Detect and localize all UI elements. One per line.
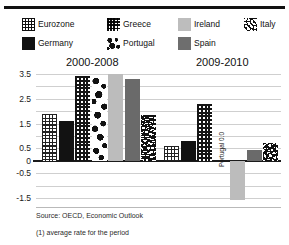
legend-label-portugal: Portugal [123,38,155,49]
legend-swatch-ireland-icon [178,18,191,31]
bar-italy-2000-2008[interactable] [141,115,156,161]
gridline-3.5 [36,74,281,75]
legend-swatch-italy-icon [244,18,257,31]
legend-item-ireland[interactable]: Ireland [178,16,220,33]
bar-italy-2009-2010[interactable] [263,143,278,160]
y-axis-tick-label-2.5: 2.5 [19,94,31,104]
y-axis-tick-label-0: 0 [26,156,31,166]
legend-label-eurozone: Eurozone [38,19,74,30]
y-axis-labels: 3.52.51.50.50-0.5-1.5 [0,74,34,198]
bar-spain-2000-2008[interactable] [125,79,140,161]
y-axis-tick-label--1.5: -1.5 [16,193,31,203]
gridline-2.5 [36,99,281,100]
legend-swatch-eurozone-icon [22,18,35,31]
legend-label-spain: Spain [194,38,216,49]
group-title-2000-2008: 2000-2008 [66,56,119,68]
bar-value-label-portugal-2009-2010: Portugal 0.0 [218,132,225,167]
legend-item-greece[interactable]: Greece [107,16,151,33]
legend-row-1: EurozoneGreeceIrelandItaly [22,16,284,33]
bar-spain-2009-2010[interactable] [247,150,262,161]
legend-item-italy[interactable]: Italy [244,16,276,33]
legend-swatch-spain-icon [178,37,191,50]
legend-label-italy: Italy [260,19,276,30]
bar-germany-2009-2010[interactable] [181,141,196,160]
y-axis-tick-label--0.5: -0.5 [16,168,31,178]
chart-legend: EurozoneGreeceIrelandItaly GermanyPortug… [22,16,284,54]
y-axis-tick-label-1.5: 1.5 [19,119,31,129]
bar-greece-2000-2008[interactable] [75,76,90,160]
top-divider-rule [4,6,285,9]
footer-divider-rule [36,207,281,208]
footnote-text: (1) average rate for the period [36,229,129,236]
legend-item-portugal[interactable]: Portugal [107,35,155,52]
bar-greece-2009-2010[interactable] [197,104,212,161]
group-title-2009-2010: 2009-2010 [196,56,249,68]
bar-eurozone-2009-2010[interactable] [164,146,179,161]
y-axis-tick-label-3.5: 3.5 [19,69,31,79]
bar-ireland-2000-2008[interactable] [108,74,123,161]
bar-eurozone-2000-2008[interactable] [42,114,57,161]
legend-label-germany: Germany [38,38,73,49]
gridline-2 [36,111,281,112]
legend-row-2: GermanyPortugalSpain [22,35,284,52]
source-note: Source: OECD, Economic Outlook [36,212,143,219]
plot-area: Portugal 0.0 [36,74,281,198]
bar-ireland-2009-2010[interactable] [230,161,245,201]
legend-item-eurozone[interactable]: Eurozone [22,16,74,33]
legend-swatch-greece-icon [107,18,120,31]
legend-item-germany[interactable]: Germany [22,35,73,52]
legend-label-greece: Greece [123,19,151,30]
legend-item-spain[interactable]: Spain [178,35,216,52]
legend-label-ireland: Ireland [194,19,220,30]
bar-germany-2000-2008[interactable] [59,121,74,161]
chart-figure: EurozoneGreeceIrelandItaly GermanyPortug… [0,0,289,245]
legend-swatch-germany-icon [22,37,35,50]
y-axis-tick-label-0.5: 0.5 [19,143,31,153]
bar-portugal-2000-2008[interactable] [92,76,107,160]
gridline-3 [36,86,281,87]
legend-swatch-portugal-icon [107,37,120,50]
